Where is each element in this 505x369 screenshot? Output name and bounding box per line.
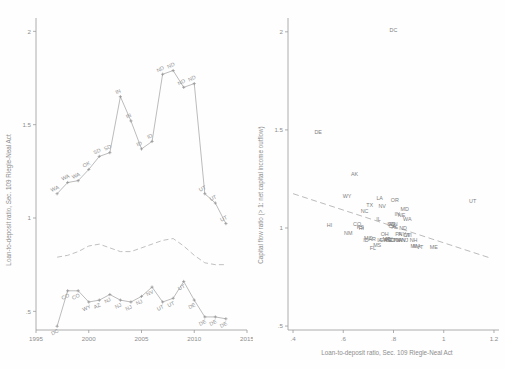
svg-text:UT: UT [156,303,166,312]
svg-text:WY: WY [81,303,92,312]
svg-text:SD: SD [92,147,101,156]
svg-text:LA: LA [376,195,383,201]
svg-text:2010: 2010 [187,335,201,342]
svg-text:KY: KY [385,236,393,242]
svg-text:NJ: NJ [124,303,133,311]
svg-text:2000: 2000 [82,335,96,342]
right-y-axis-title: Capital flow ratio (> 1: net capital inc… [257,126,265,263]
svg-text:WA: WA [71,171,82,180]
svg-text:NJ: NJ [135,298,144,306]
svg-text:1: 1 [28,214,32,221]
left-chart-series [56,69,228,328]
svg-text:ND: ND [399,225,407,231]
left-chart-svg: .511.5219952000200520102015 WAWAWAOKSDSD… [0,0,253,369]
svg-text:WA: WA [60,173,71,182]
svg-text:IN: IN [114,87,122,95]
svg-text:UT: UT [198,184,208,193]
svg-text:DC: DC [50,328,60,337]
svg-text:UT: UT [208,193,218,202]
svg-text:IL: IL [376,216,381,222]
left-chart-axes: .511.5219952000200520102015 [22,18,253,342]
left-chart-point-labels: WAWAWAOKSDSDININIDIDNDNDNDNDUTUTUTDCCOCO… [50,61,229,337]
svg-text:NJ: NJ [402,237,409,243]
right-chart-panel: .511.52.4.6.811.2 DCDEAKWYLAORUTTXNVNCMD… [252,0,505,369]
svg-text:UT: UT [166,299,176,308]
svg-text:.5: .5 [278,322,284,329]
svg-text:SD: SD [103,143,112,152]
svg-text:AZ: AZ [93,301,102,310]
svg-text:1.5: 1.5 [274,126,283,133]
svg-text:UT: UT [469,198,477,204]
svg-text:1.2: 1.2 [490,335,499,342]
svg-text:NC: NC [361,208,369,214]
svg-text:ND: ND [155,65,165,74]
svg-text:DE: DE [219,320,229,329]
svg-text:1: 1 [442,335,446,342]
svg-text:AL: AL [391,224,398,230]
svg-text:OK: OK [82,160,92,169]
svg-text:.4: .4 [290,335,296,342]
svg-text:.5: .5 [26,308,32,315]
svg-text:HI: HI [327,222,332,228]
svg-text:ME: ME [430,244,438,250]
svg-text:DE: DE [208,318,218,327]
svg-text:WA: WA [403,216,412,222]
svg-text:1.5: 1.5 [22,121,31,128]
svg-text:IN: IN [125,112,133,120]
right-chart-svg: .511.52.4.6.811.2 DCDEAKWYLAORUTTXNVNCMD… [252,0,505,369]
svg-text:NV: NV [378,203,386,209]
svg-text:.6: .6 [341,335,347,342]
svg-text:UT: UT [219,214,229,223]
svg-text:CO: CO [60,292,70,301]
right-chart-scatter-labels: DCDEAKWYLAORUTTXNVNCMDINNEILWAHICOKSSDMN… [314,27,477,251]
svg-text:ID: ID [363,237,368,243]
left-y-axis-title: Loan-to-deposit ratio, Sec. 109 Riegle-N… [5,134,13,266]
svg-text:2: 2 [28,28,32,35]
svg-text:DE: DE [314,129,322,135]
svg-text:NJ: NJ [103,296,112,304]
svg-text:WY: WY [343,193,352,199]
svg-text:ND: ND [187,74,197,83]
svg-text:NJ: NJ [114,302,123,310]
svg-text:2: 2 [280,28,284,35]
svg-text:OR: OR [391,197,399,203]
svg-text:ID: ID [135,140,143,148]
svg-text:RI: RI [359,225,364,231]
right-chart-axes: .511.52.4.6.811.2 [274,18,499,342]
svg-text:NV: NV [145,288,155,297]
svg-text:DC: DC [390,27,398,33]
svg-text:CO: CO [71,292,81,301]
svg-text:2005: 2005 [135,335,149,342]
svg-text:1995: 1995 [29,335,43,342]
left-chart-panel: .511.5219952000200520102015 WAWAWAOKSDSD… [0,0,253,369]
svg-text:ND: ND [166,61,176,70]
svg-text:.8: .8 [391,335,397,342]
svg-text:DE: DE [198,318,208,327]
figure-container: .511.5219952000200520102015 WAWAWAOKSDSD… [0,0,505,369]
svg-text:AK: AK [351,171,359,177]
svg-text:1: 1 [280,224,284,231]
svg-text:VT: VT [416,244,424,250]
right-x-axis-title: Loan-to-deposit ratio, Sec. 109 Riegle-N… [321,349,453,357]
svg-text:FL: FL [370,245,376,251]
svg-text:CT: CT [403,232,411,238]
svg-text:NM: NM [344,230,353,236]
